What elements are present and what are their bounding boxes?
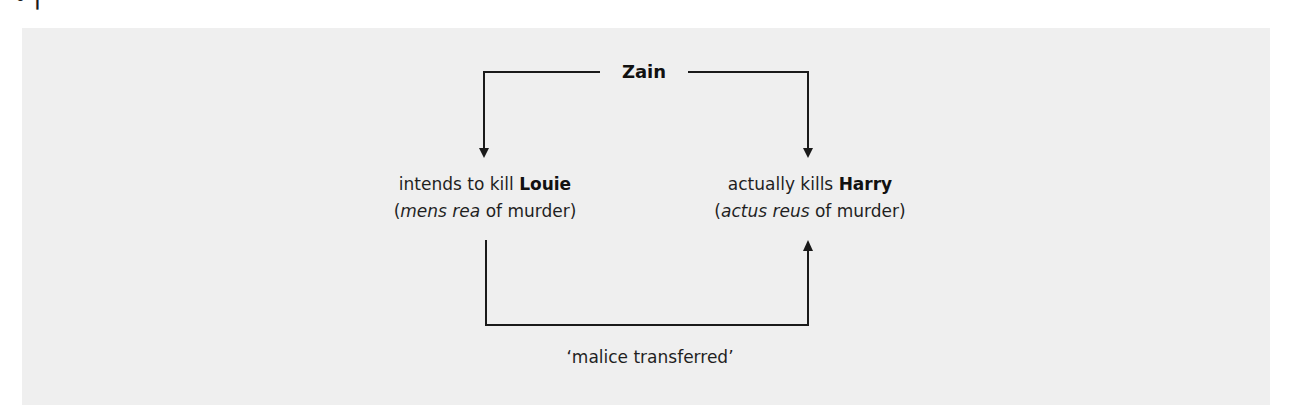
node-text: intends to kill	[399, 174, 519, 194]
node-intends-to-kill-louie: intends to kill Louie (mens rea of murde…	[340, 171, 630, 225]
latin-term: mens rea	[400, 201, 480, 221]
top-right-connector	[688, 72, 813, 158]
bottom-connector	[486, 240, 813, 325]
node-line-1: actually kills Harry	[665, 171, 955, 198]
latin-term: actus reus	[721, 201, 810, 221]
arrow-down-icon	[479, 148, 489, 158]
victim-name: Louie	[519, 174, 571, 194]
paren-open: (	[714, 201, 721, 221]
node-text: of murder)	[810, 201, 906, 221]
arrow-up-icon	[803, 240, 813, 251]
node-text: actually kills	[728, 174, 839, 194]
node-actually-kills-harry: actually kills Harry (actus reus of murd…	[665, 171, 955, 225]
node-line-2: (mens rea of murder)	[340, 198, 630, 225]
top-left-connector	[479, 72, 600, 158]
arrow-down-icon	[803, 148, 813, 158]
node-zain: Zain	[600, 58, 688, 85]
node-line-2: (actus reus of murder)	[665, 198, 955, 225]
node-line-1: intends to kill Louie	[340, 171, 630, 198]
victim-name: Harry	[839, 174, 893, 194]
node-text: of murder)	[480, 201, 576, 221]
edge-label-malice-transferred: ‘malice transferred’	[500, 344, 800, 371]
